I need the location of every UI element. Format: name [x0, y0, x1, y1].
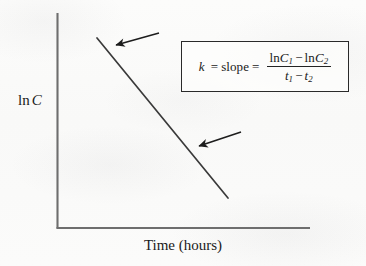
figure-canvas: lnC Time (hours) k = slope = lnC1−lnC2 t…	[0, 0, 366, 266]
formula-equals-2: =	[249, 59, 262, 75]
lower-arrow	[199, 132, 241, 146]
slope-formula: k = slope = lnC1−lnC2 t1−t2	[199, 50, 331, 84]
formula-fraction: lnC1−lnC2 t1−t2	[267, 50, 332, 84]
formula-slope-word: slope	[221, 59, 249, 75]
numerator-var-2: C	[315, 50, 324, 65]
formula-denominator: t1−t2	[282, 67, 316, 83]
denominator-sub-2: 2	[308, 75, 313, 85]
y-axis-label: lnC	[18, 93, 42, 108]
y-axis-label-c: C	[30, 92, 42, 108]
upper-arrow	[116, 33, 159, 45]
numerator-ln-2: ln	[305, 50, 315, 65]
denominator-operator: −	[293, 68, 304, 83]
numerator-sub-2: 2	[324, 56, 329, 66]
formula-box: k = slope = lnC1−lnC2 t1−t2	[181, 41, 349, 92]
x-axis-label: Time (hours)	[0, 238, 366, 253]
numerator-var-1: C	[280, 50, 289, 65]
formula-numerator: lnC1−lnC2	[267, 50, 332, 66]
formula-k: k	[199, 59, 208, 75]
plot-graphics	[0, 0, 366, 266]
formula-equals-1: =	[208, 59, 221, 75]
numerator-ln-1: ln	[270, 50, 280, 65]
numerator-operator: −	[293, 50, 304, 65]
y-axis-label-ln: ln	[18, 92, 30, 108]
